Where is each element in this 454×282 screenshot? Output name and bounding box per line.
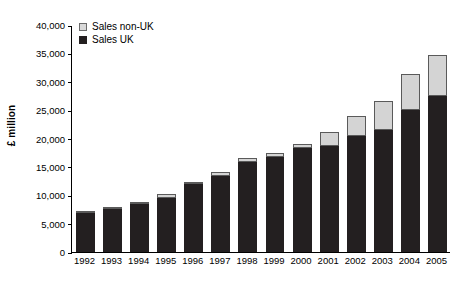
- bar-slot: [72, 26, 99, 252]
- x-tick-label-1995: 1995: [152, 255, 179, 266]
- bar-slot: [343, 26, 370, 252]
- bar-slot: [370, 26, 397, 252]
- x-tick-label-1994: 1994: [125, 255, 152, 266]
- bar-2004[interactable]: [401, 25, 420, 252]
- chart-legend: Sales non-UKSales UK: [79, 20, 154, 46]
- bar-segment-sales-non-uk: [76, 211, 95, 213]
- bar-segment-sales-uk: [266, 157, 285, 252]
- bar-segment-sales-non-uk: [347, 116, 366, 135]
- y-tick-label: 10,000: [36, 189, 65, 203]
- bar-1997[interactable]: [211, 25, 230, 252]
- legend-swatch-icon: [79, 23, 87, 31]
- x-tick-label-1996: 1996: [179, 255, 206, 266]
- bar-slot: [99, 26, 126, 252]
- bar-1992[interactable]: [76, 25, 95, 252]
- x-tick-label-1999: 1999: [261, 255, 288, 266]
- bar-2001[interactable]: [320, 25, 339, 252]
- bar-segment-sales-non-uk: [266, 153, 285, 157]
- bar-slot: [153, 26, 180, 252]
- bar-2000[interactable]: [293, 25, 312, 252]
- bar-segment-sales-uk: [238, 162, 257, 252]
- bar-2003[interactable]: [374, 25, 393, 252]
- x-tick-label-2005: 2005: [423, 255, 450, 266]
- bar-segment-sales-uk: [293, 148, 312, 252]
- bar-segment-sales-uk: [184, 184, 203, 252]
- y-tick-mark: [68, 253, 72, 254]
- bar-slot: [316, 26, 343, 252]
- bar-segment-sales-non-uk: [130, 202, 149, 204]
- x-tick-label-2004: 2004: [396, 255, 423, 266]
- bar-segment-sales-non-uk: [401, 74, 420, 110]
- bar-segment-sales-uk: [211, 176, 230, 252]
- x-tick-label-2000: 2000: [288, 255, 315, 266]
- y-tick-label: 0: [60, 246, 65, 260]
- y-tick-label: 30,000: [36, 76, 65, 90]
- bar-1993[interactable]: [103, 25, 122, 252]
- legend-swatch-icon: [79, 36, 87, 44]
- bar-segment-sales-uk: [130, 204, 149, 252]
- bar-segment-sales-non-uk: [211, 172, 230, 176]
- bar-1995[interactable]: [157, 25, 176, 252]
- bar-segment-sales-uk: [103, 209, 122, 252]
- x-tick-label-1998: 1998: [233, 255, 260, 266]
- bar-segment-sales-non-uk: [157, 194, 176, 197]
- bar-series-group: [72, 26, 450, 252]
- y-axis-title: £ million: [2, 0, 22, 250]
- bar-segment-sales-non-uk: [103, 207, 122, 209]
- legend-label: Sales non-UK: [92, 21, 154, 32]
- bar-segment-sales-uk: [428, 96, 447, 252]
- bar-segment-sales-non-uk: [238, 158, 257, 162]
- x-tick-label-2003: 2003: [369, 255, 396, 266]
- plot-area: 05,00010,00015,00020,00025,00030,00035,0…: [71, 26, 450, 253]
- x-tick-label-1993: 1993: [98, 255, 125, 266]
- y-tick-label: 35,000: [36, 47, 65, 61]
- bar-segment-sales-uk: [401, 110, 420, 252]
- bar-segment-sales-non-uk: [428, 55, 447, 96]
- bar-slot: [262, 26, 289, 252]
- y-tick-label: 20,000: [36, 133, 65, 147]
- bar-slot: [289, 26, 316, 252]
- bar-segment-sales-non-uk: [374, 101, 393, 131]
- bar-1994[interactable]: [130, 25, 149, 252]
- y-tick-label: 40,000: [36, 19, 65, 33]
- x-tick-label-1997: 1997: [206, 255, 233, 266]
- bar-slot: [424, 26, 451, 252]
- bar-2005[interactable]: [428, 25, 447, 252]
- chart-figure: £ million 05,00010,00015,00020,00025,000…: [0, 0, 454, 282]
- bar-segment-sales-uk: [374, 130, 393, 252]
- y-axis-title-text: £ million: [7, 104, 18, 145]
- bar-segment-sales-uk: [320, 146, 339, 252]
- bar-1999[interactable]: [266, 25, 285, 252]
- bar-segment-sales-non-uk: [293, 144, 312, 149]
- legend-label: Sales UK: [92, 34, 134, 45]
- legend-item-uk[interactable]: Sales UK: [79, 33, 154, 46]
- legend-item-nonuk[interactable]: Sales non-UK: [79, 20, 154, 33]
- y-tick-label: 5,000: [41, 218, 65, 232]
- bar-segment-sales-non-uk: [320, 132, 339, 146]
- bar-segment-sales-non-uk: [184, 182, 203, 184]
- bar-slot: [397, 26, 424, 252]
- bar-slot: [207, 26, 234, 252]
- bar-segment-sales-uk: [157, 198, 176, 252]
- bar-slot: [234, 26, 261, 252]
- y-tick-label: 15,000: [36, 161, 65, 175]
- bar-slot: [126, 26, 153, 252]
- x-tick-label-2002: 2002: [342, 255, 369, 266]
- bar-segment-sales-uk: [347, 136, 366, 252]
- bar-segment-sales-uk: [76, 213, 95, 252]
- bar-1996[interactable]: [184, 25, 203, 252]
- x-tick-label-2001: 2001: [315, 255, 342, 266]
- bar-2002[interactable]: [347, 25, 366, 252]
- bar-slot: [180, 26, 207, 252]
- bar-1998[interactable]: [238, 25, 257, 252]
- y-tick-label: 25,000: [36, 104, 65, 118]
- x-tick-label-1992: 1992: [71, 255, 98, 266]
